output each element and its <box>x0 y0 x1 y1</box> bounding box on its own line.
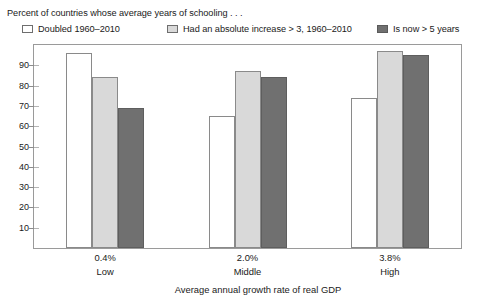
x-axis-group-value: 0.4% <box>94 252 115 263</box>
y-axis-inner-tick <box>34 147 39 148</box>
x-axis-group-name: High <box>380 266 399 277</box>
x-axis-title: Average annual growth rate of real GDP <box>0 284 492 295</box>
y-axis-tick-label: 40 <box>7 162 29 172</box>
y-axis-inner-tick <box>34 207 39 208</box>
legend-item-label: Had an absolute increase > 3, 1960–2010 <box>183 24 352 34</box>
y-axis-tick-label: 70 <box>7 101 29 111</box>
bar-middle-series-1 <box>209 116 235 248</box>
bar-low-series-2 <box>92 77 118 248</box>
bar-high-series-1 <box>351 98 377 248</box>
bar-low-series-3 <box>118 108 144 248</box>
y-axis-inner-tick <box>34 106 39 107</box>
x-axis-group-name: Middle <box>234 266 262 277</box>
legend-item-is-now: Is now > 5 years <box>377 24 459 34</box>
x-axis-group-value: 3.8% <box>379 252 400 263</box>
x-axis-group-value: 2.0% <box>237 252 258 263</box>
y-axis-inner-tick <box>34 86 39 87</box>
bar-high-series-3 <box>403 55 429 248</box>
chart-container: Percent of countries whose average years… <box>0 0 492 307</box>
bar-low-series-1 <box>66 53 92 248</box>
chart-legend: Doubled 1960–2010 Had an absolute increa… <box>22 24 492 38</box>
y-axis-inner-tick <box>34 167 39 168</box>
plot-inner <box>34 45 461 248</box>
bar-middle-series-2 <box>235 71 261 248</box>
y-axis-tick-label: 80 <box>7 81 29 91</box>
legend-item-absolute-increase: Had an absolute increase > 3, 1960–2010 <box>167 24 352 34</box>
bar-middle-series-3 <box>261 77 287 248</box>
y-axis-inner-tick <box>34 187 39 188</box>
legend-item-doubled: Doubled 1960–2010 <box>22 24 120 34</box>
y-axis-inner-tick <box>34 126 39 127</box>
y-axis-tick-label: 20 <box>7 202 29 212</box>
y-axis-tick-label: 30 <box>7 182 29 192</box>
x-axis-title-text: Average annual growth rate of real GDP <box>175 284 342 295</box>
y-axis-tick-label: 50 <box>7 142 29 152</box>
light-gray-swatch-icon <box>167 25 178 33</box>
bar-high-series-2 <box>377 51 403 248</box>
y-axis-tick-label: 10 <box>7 223 29 233</box>
x-axis-group-name: Low <box>97 266 114 277</box>
y-axis-tick-label: 60 <box>7 121 29 131</box>
y-axis-tick-label: 90 <box>7 60 29 70</box>
y-axis-inner-tick <box>34 228 39 229</box>
plot-area <box>33 44 462 249</box>
chart-caption: Percent of countries whose average years… <box>7 8 243 18</box>
white-swatch-icon <box>22 25 33 33</box>
legend-item-label: Is now > 5 years <box>393 24 459 34</box>
dark-gray-swatch-icon <box>377 25 388 33</box>
y-axis-inner-tick <box>34 65 39 66</box>
legend-item-label: Doubled 1960–2010 <box>38 24 120 34</box>
